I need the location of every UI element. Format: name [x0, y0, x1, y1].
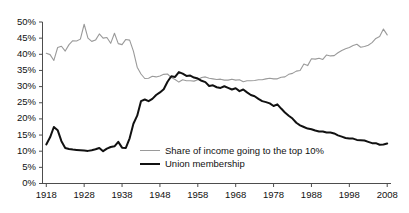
chart-plot-area [0, 0, 409, 213]
y-tick-label: 20% [2, 113, 36, 123]
legend-item-income-share: Share of income going to the top 10% [140, 144, 324, 157]
x-tick-label: 1998 [329, 190, 369, 200]
series-line-union-membership [46, 72, 387, 151]
chart-container: 50%45%40%35%30%25%20%15%10%5%0% 19181928… [0, 0, 409, 213]
x-tick-label: 2008 [367, 190, 407, 200]
x-axis-ticks [46, 184, 387, 188]
y-tick-label: 35% [2, 65, 36, 75]
x-tick-label: 1968 [216, 190, 256, 200]
y-tick-label: 30% [2, 81, 36, 91]
gray-line-swatch [140, 150, 160, 151]
x-tick-label: 1948 [140, 190, 180, 200]
legend-label-income-share: Share of income going to the top 10% [165, 144, 324, 157]
y-axis-ticks [39, 22, 43, 184]
y-tick-label: 50% [2, 17, 36, 27]
x-tick-label: 1958 [178, 190, 218, 200]
x-tick-label: 1918 [26, 190, 66, 200]
y-tick-label: 15% [2, 130, 36, 140]
y-tick-label: 25% [2, 97, 36, 107]
y-tick-label: 10% [2, 146, 36, 156]
y-tick-label: 0% [2, 178, 36, 188]
x-tick-label: 1978 [254, 190, 294, 200]
x-tick-label: 1938 [102, 190, 142, 200]
legend-label-union-membership: Union membership [165, 157, 245, 170]
legend-item-union-membership: Union membership [140, 157, 324, 170]
chart-legend: Share of income going to the top 10% Uni… [140, 144, 324, 170]
y-tick-label: 5% [2, 162, 36, 172]
y-tick-label: 40% [2, 49, 36, 59]
y-tick-label: 45% [2, 33, 36, 43]
series-line-share-of-income-going-to-the-top-10 [46, 24, 387, 82]
x-tick-label: 1928 [64, 190, 104, 200]
data-series-layer [46, 24, 387, 151]
x-tick-label: 1988 [291, 190, 331, 200]
black-line-swatch [140, 163, 160, 165]
